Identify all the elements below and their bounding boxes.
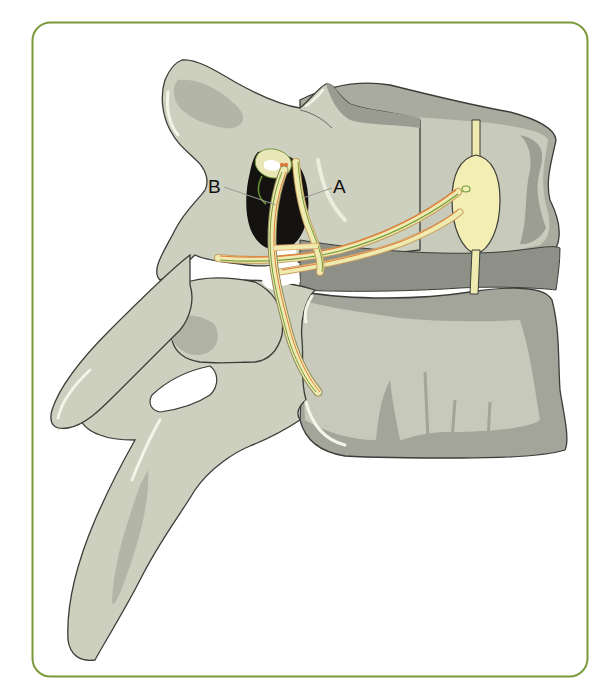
nerve-connector-inner	[274, 246, 318, 248]
label-a: A	[333, 176, 346, 197]
sympathetic-trunk-upper	[472, 120, 480, 160]
sympathetic-trunk-lower	[470, 250, 480, 294]
body-ridge	[488, 402, 490, 440]
vertebra-nerve-diagram: A B	[0, 0, 610, 699]
lower-body-face	[300, 300, 540, 440]
label-b: B	[208, 176, 221, 197]
